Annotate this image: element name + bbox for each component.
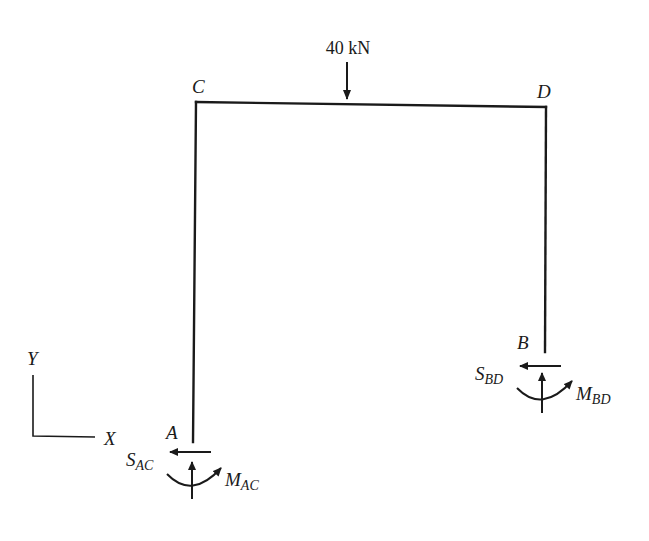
frame-diagram: 40 kN C D A B SAC MAC SBD MBD Y X <box>0 0 649 541</box>
column-ac <box>193 102 196 442</box>
reactions-b: SBD MBD <box>475 363 611 413</box>
joint-label-b: B <box>517 332 529 353</box>
axes-lines <box>33 375 95 437</box>
coordinate-axes: Y X <box>27 348 117 449</box>
axis-label-y: Y <box>27 348 40 369</box>
moment-arc-ac-icon <box>167 468 221 486</box>
load-label: 40 kN <box>326 38 371 58</box>
column-bd <box>545 107 546 352</box>
reactions-a: SAC MAC <box>126 449 259 499</box>
moment-label-ac: MAC <box>224 469 259 493</box>
moment-arc-bd-icon <box>517 381 572 399</box>
shear-label-ac: SAC <box>126 449 154 473</box>
beam-cd <box>196 102 546 107</box>
joint-label-c: C <box>192 76 205 97</box>
shear-label-bd: SBD <box>475 363 503 387</box>
applied-load: 40 kN <box>326 38 371 99</box>
joint-label-d: D <box>536 81 551 102</box>
joint-label-a: A <box>164 422 178 443</box>
moment-label-bd: MBD <box>575 383 611 407</box>
frame <box>193 102 546 442</box>
axis-label-x: X <box>103 428 117 449</box>
